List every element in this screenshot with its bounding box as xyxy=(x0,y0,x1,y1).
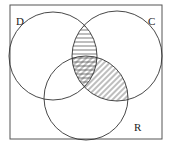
label-d: D xyxy=(16,15,24,27)
label-r: R xyxy=(134,121,142,133)
label-c: C xyxy=(148,15,155,27)
venn-diagram: D C R xyxy=(0,0,170,148)
